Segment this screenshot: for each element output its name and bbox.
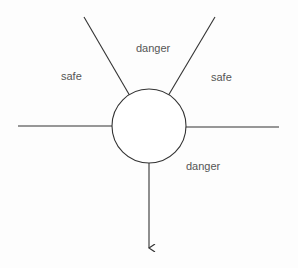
upper-left-line	[84, 17, 130, 96]
label-top-danger: danger	[136, 42, 170, 54]
safe-danger-diagram: danger safe safe danger	[0, 0, 298, 268]
label-right-safe: safe	[211, 71, 232, 83]
diagram-lines	[0, 0, 298, 268]
label-left-safe: safe	[61, 70, 82, 82]
label-bottom-danger: danger	[186, 160, 220, 172]
center-circle	[112, 89, 186, 163]
upper-right-line	[168, 17, 215, 96]
